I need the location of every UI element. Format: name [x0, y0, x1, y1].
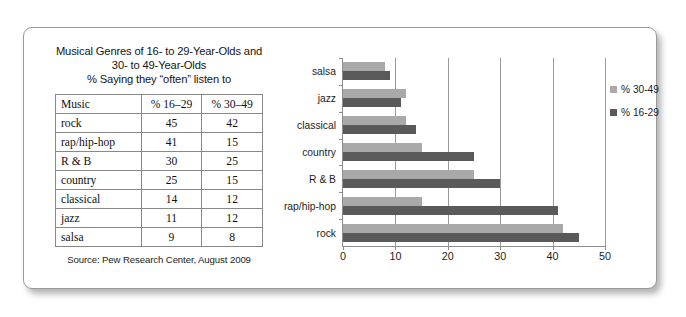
category-label-salsa: salsa [312, 66, 336, 77]
y-tick [339, 85, 343, 86]
y-tick [339, 165, 343, 166]
bar-rock--30-49 [343, 224, 563, 233]
plot-right-frame [605, 58, 606, 246]
figure-card: Musical Genres of 16- to 29-Year-Olds an… [23, 27, 657, 289]
title-line-1: Musical Genres of 16- to 29-Year-Olds an… [38, 44, 280, 58]
bar-rock--16-29 [343, 233, 579, 242]
gridline-40 [553, 58, 554, 246]
table-header-row: Music % 16–29 % 30–49 [56, 95, 263, 114]
category-label-rap-hip-hop: rap/hip-hop [284, 200, 336, 211]
cell-30-49: 12 [202, 209, 263, 228]
cell-16-29: 45 [141, 114, 202, 133]
category-label-classical: classical [297, 120, 336, 131]
source-note: Source: Pew Research Center, August 2009 [34, 254, 284, 265]
bar-r-b--16-29 [343, 179, 500, 188]
cell-30-49: 15 [202, 171, 263, 190]
category-label-r-b: R & B [309, 173, 336, 184]
legend-swatch-icon [610, 86, 617, 93]
bar-jazz--30-49 [343, 89, 406, 98]
category-label-rock: rock [317, 227, 336, 238]
bar-salsa--16-29 [343, 71, 390, 80]
cell-16-29: 14 [141, 190, 202, 209]
legend-swatch-icon [610, 109, 617, 116]
cell-genre: salsa [56, 228, 142, 247]
y-tick [339, 112, 343, 113]
bar-jazz--16-29 [343, 98, 401, 107]
cell-16-29: 30 [141, 152, 202, 171]
cell-30-49: 42 [202, 114, 263, 133]
legend-item: % 16-29 [610, 107, 650, 118]
table-row: R & B 30 25 [56, 152, 263, 171]
bar-rap-hip-hop--16-29 [343, 206, 558, 215]
x-tick-label-20: 20 [442, 250, 454, 262]
bar-salsa--30-49 [343, 62, 385, 71]
bar-country--30-49 [343, 143, 422, 152]
bar-rap-hip-hop--30-49 [343, 197, 422, 206]
cell-16-29: 25 [141, 171, 202, 190]
column-header-30-49: % 30–49 [202, 95, 263, 114]
x-tick-label-40: 40 [547, 250, 559, 262]
cell-16-29: 11 [141, 209, 202, 228]
category-label-country: country [302, 147, 336, 158]
cell-genre: R & B [56, 152, 142, 171]
table-row: country 25 15 [56, 171, 263, 190]
bar-classical--30-49 [343, 116, 406, 125]
bar-classical--16-29 [343, 125, 416, 134]
bar-country--16-29 [343, 152, 474, 161]
cell-genre: classical [56, 190, 142, 209]
cell-16-29: 41 [141, 133, 202, 152]
y-tick [339, 58, 343, 59]
cell-16-29: 9 [141, 228, 202, 247]
table-row: rock 45 42 [56, 114, 263, 133]
y-tick [339, 192, 343, 193]
table-row: salsa 9 8 [56, 228, 263, 247]
cell-30-49: 25 [202, 152, 263, 171]
table-panel: Musical Genres of 16- to 29-Year-Olds an… [34, 36, 284, 282]
legend-item: % 30-49 [610, 84, 650, 95]
cell-genre: rap/hip-hop [56, 133, 142, 152]
figure-title: Musical Genres of 16- to 29-Year-Olds an… [34, 36, 284, 86]
x-tick-label-30: 30 [494, 250, 506, 262]
cell-genre: jazz [56, 209, 142, 228]
table-row: rap/hip-hop 41 15 [56, 133, 263, 152]
genre-data-table: Music % 16–29 % 30–49 rock 45 42 rap/hip… [55, 94, 263, 247]
bar-r-b--30-49 [343, 170, 474, 179]
cell-genre: rock [56, 114, 142, 133]
table-row: classical 14 12 [56, 190, 263, 209]
chart-legend: % 30-49% 16-29 [610, 84, 650, 130]
title-line-3: % Saying they “often” listen to [38, 72, 280, 86]
cell-genre: country [56, 171, 142, 190]
gridline-30 [500, 58, 501, 246]
cell-30-49: 8 [202, 228, 263, 247]
x-tick-label-10: 10 [389, 250, 401, 262]
plot-area: 01020304050salsajazzclassicalcountryR & … [342, 58, 605, 247]
category-label-jazz: jazz [318, 93, 336, 104]
x-tick-label-50: 50 [599, 250, 611, 262]
x-tick-label-0: 0 [340, 250, 346, 262]
column-header-16-29: % 16–29 [141, 95, 202, 114]
cell-30-49: 15 [202, 133, 263, 152]
legend-label: % 30-49 [621, 84, 659, 95]
column-header-music: Music [56, 95, 142, 114]
table-row: jazz 11 12 [56, 209, 263, 228]
bar-chart: 01020304050salsajazzclassicalcountryR & … [280, 36, 652, 282]
y-tick [339, 219, 343, 220]
title-line-2: 30- to 49-Year-Olds [38, 58, 280, 72]
legend-label: % 16-29 [621, 107, 659, 118]
cell-30-49: 12 [202, 190, 263, 209]
y-tick [339, 139, 343, 140]
